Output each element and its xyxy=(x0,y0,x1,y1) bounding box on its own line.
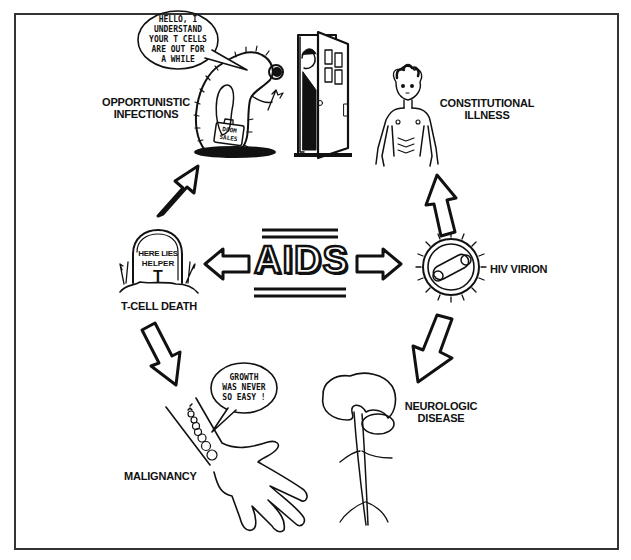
arrow-virion-to-neurologic xyxy=(413,315,452,382)
door-icon xyxy=(294,32,352,158)
speech-text-malignancy: GROWTH WAS NEVER SO EASY ! xyxy=(214,373,274,403)
speech-line: UNDERSTAND xyxy=(145,25,211,35)
label-line: MALIGNANCY xyxy=(124,470,204,482)
aids-center-label: AIDS xyxy=(254,238,344,282)
label-t-cell-death: T-CELL DEATH xyxy=(112,300,206,312)
arrow-t-cell-death-to-malignancy xyxy=(142,323,180,385)
arrow-aids-to-t-cell-death xyxy=(205,249,249,279)
label-malignancy: MALIGNANCY xyxy=(124,470,204,482)
emaciated-man-icon xyxy=(376,65,438,166)
label-line: ILLNESS xyxy=(437,109,537,121)
speech-line: ARE OUT FOR xyxy=(145,45,211,55)
speech-line: WAS NEVER xyxy=(214,383,274,393)
arrow-t-cell-death-to-infections xyxy=(158,166,198,216)
arrow-virion-to-constitutional xyxy=(426,175,456,236)
label-line: HIV VIRION xyxy=(490,263,560,275)
label-line: DISEASE xyxy=(401,412,481,424)
brain-spinal-cord-icon xyxy=(323,373,396,525)
speech-text-infection: HELLO, I UNDERSTAND YOUR T CELLS ARE OUT… xyxy=(145,15,211,65)
speech-line: HELLO, I xyxy=(145,15,211,25)
briefcase-label: DOOM SALES xyxy=(215,124,243,143)
hand-with-growth-icon xyxy=(166,398,307,532)
hiv-virion-icon xyxy=(416,232,486,302)
tombstone-line: T xyxy=(136,269,180,285)
speech-line: YOUR T CELLS xyxy=(145,35,211,45)
label-line: T-CELL DEATH xyxy=(112,300,206,312)
tombstone-line: HERE LIES xyxy=(136,249,180,259)
label-opportunistic-infections: OPPORTUNISTIC INFECTIONS xyxy=(96,96,196,120)
arrow-aids-to-virion xyxy=(357,249,401,279)
label-line: INFECTIONS xyxy=(96,108,196,120)
label-hiv-virion: HIV VIRION xyxy=(490,263,560,275)
tombstone-inscription: HERE LIES HELPER T xyxy=(136,249,180,285)
label-line: CONSTITUTIONAL xyxy=(437,97,537,109)
label-constitutional-illness: CONSTITUTIONAL ILLNESS xyxy=(437,97,537,121)
label-neurologic-disease: NEUROLOGIC DISEASE xyxy=(401,400,481,424)
speech-line: SO EASY ! xyxy=(214,393,274,403)
speech-line: A WHILE xyxy=(145,55,211,65)
speech-line: GROWTH xyxy=(214,373,274,383)
label-line: OPPORTUNISTIC xyxy=(96,96,196,108)
label-line: NEUROLOGIC xyxy=(401,400,481,412)
